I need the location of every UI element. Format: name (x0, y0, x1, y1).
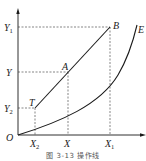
point-T-label: T (29, 97, 36, 108)
y-axis-arrow-icon (16, 8, 19, 14)
point-B-label: B (113, 20, 119, 31)
y-label: Y (6, 67, 13, 78)
y2-label: Y2 (4, 103, 13, 115)
point-E-label: E (137, 24, 144, 35)
equilibrium-curve-OE (18, 25, 137, 135)
origin-label: O (6, 132, 13, 143)
figure-caption: 图 3-13 操作线 (0, 150, 146, 160)
x2-label: X2 (29, 138, 39, 150)
x1-label: X1 (104, 138, 114, 150)
point-A-label: A (61, 61, 69, 72)
y1-label: Y1 (4, 22, 13, 34)
operating-line-diagram: O Y1 Y Y2 X2 X X1 T A B E (0, 0, 146, 161)
operating-line-TB (35, 27, 110, 108)
x-axis-arrow-icon (140, 133, 146, 136)
x-label: X (63, 138, 71, 149)
